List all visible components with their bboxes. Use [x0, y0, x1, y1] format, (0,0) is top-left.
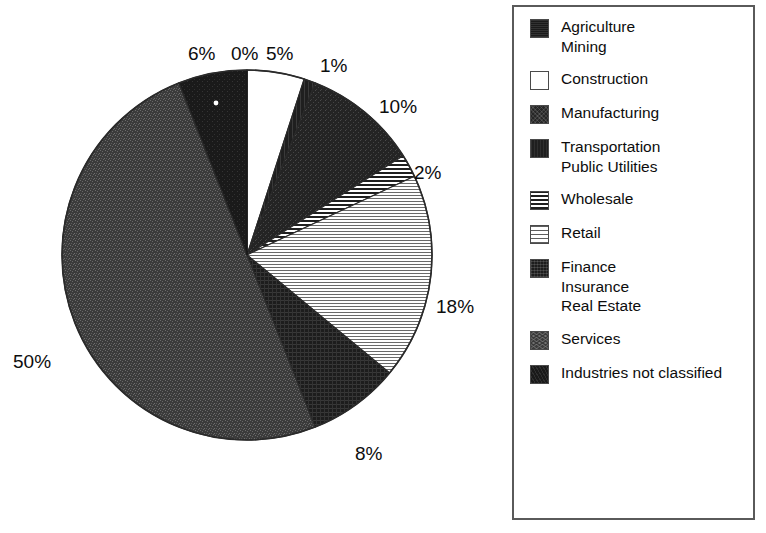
legend-swatch-industries-not-classified	[530, 365, 549, 384]
legend-swatch-transportation-public-utilities	[530, 139, 549, 158]
legend-item-label: Agriculture Mining	[561, 17, 635, 56]
pie-percentage-label: 10%	[379, 97, 417, 116]
legend-item[interactable]: Construction	[530, 69, 747, 90]
legend-item[interactable]: Services	[530, 329, 747, 350]
pie-artifact-dot	[214, 101, 219, 106]
legend-item-label: Construction	[561, 69, 648, 89]
legend-item-label: Wholesale	[561, 189, 633, 209]
legend-swatch-retail	[530, 225, 549, 244]
legend-item-label: Transportation Public Utilities	[561, 137, 660, 176]
legend-item[interactable]: Finance Insurance Real Estate	[530, 257, 747, 316]
pie-chart-plot-area: 6%0%5%1%10%2%18%8%50%	[0, 0, 500, 533]
pie-percentage-label: 1%	[320, 56, 347, 75]
pie-chart-figure: 6%0%5%1%10%2%18%8%50% Agriculture Mining…	[0, 0, 766, 533]
pie-percentage-label: 5%	[266, 44, 293, 63]
legend-item[interactable]: Agriculture Mining	[530, 17, 747, 56]
legend-swatch-finance-insurance-real-estate	[530, 259, 549, 278]
legend-swatch-manufacturing	[530, 105, 549, 124]
legend-item[interactable]: Industries not classified	[530, 363, 747, 384]
legend-swatch-agriculture-mining	[530, 19, 549, 38]
legend-list: Agriculture MiningConstructionManufactur…	[530, 17, 747, 397]
legend-item-label: Manufacturing	[561, 103, 659, 123]
pie-percentage-label: 50%	[13, 352, 51, 371]
legend-swatch-services	[530, 331, 549, 350]
legend-item[interactable]: Retail	[530, 223, 747, 244]
legend-item[interactable]: Wholesale	[530, 189, 747, 210]
pie-percentage-label: 8%	[355, 444, 382, 463]
pie-chart-svg	[0, 0, 500, 533]
legend-item-label: Retail	[561, 223, 601, 243]
legend-item-label: Finance Insurance Real Estate	[561, 257, 641, 316]
legend-item[interactable]: Transportation Public Utilities	[530, 137, 747, 176]
legend-swatch-construction	[530, 71, 549, 90]
pie-percentage-label: 2%	[414, 163, 441, 182]
legend-item-label: Industries not classified	[561, 363, 722, 383]
pie-slice-group	[62, 70, 432, 440]
pie-percentage-label: 6%	[188, 44, 215, 63]
legend-swatch-wholesale	[530, 191, 549, 210]
pie-percentage-label: 18%	[436, 297, 474, 316]
legend-item-label: Services	[561, 329, 620, 349]
legend-box: Agriculture MiningConstructionManufactur…	[512, 5, 755, 520]
legend-item[interactable]: Manufacturing	[530, 103, 747, 124]
pie-percentage-label: 0%	[231, 44, 258, 63]
